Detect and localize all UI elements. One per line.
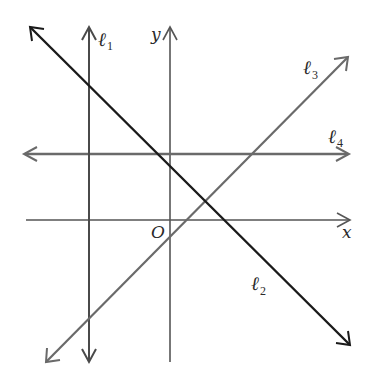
line-l4 [24, 147, 349, 161]
line-l1 [82, 27, 96, 362]
line-l3 [46, 57, 348, 362]
svg-text:2: 2 [260, 284, 266, 298]
svg-text:ℓ: ℓ [251, 272, 259, 294]
svg-text:ℓ: ℓ [303, 56, 311, 78]
label-l2: ℓ 2 [251, 272, 266, 298]
svg-text:3: 3 [312, 68, 318, 82]
origin-label: O [151, 222, 165, 242]
svg-text:4: 4 [337, 136, 343, 150]
svg-text:ℓ: ℓ [98, 28, 106, 50]
label-l1: ℓ 1 [98, 28, 113, 53]
svg-text:ℓ: ℓ [328, 125, 336, 147]
line-l2 [30, 27, 350, 345]
y-axis-label: y [150, 24, 161, 44]
coordinate-plane-diagram: y x O ℓ 1 ℓ 2 ℓ 3 ℓ 4 [0, 0, 369, 384]
svg-text:1: 1 [107, 39, 113, 53]
x-axis-label: x [342, 222, 352, 242]
label-l4: ℓ 4 [328, 125, 343, 150]
label-l3: ℓ 3 [303, 56, 318, 82]
y-axis [163, 27, 177, 362]
